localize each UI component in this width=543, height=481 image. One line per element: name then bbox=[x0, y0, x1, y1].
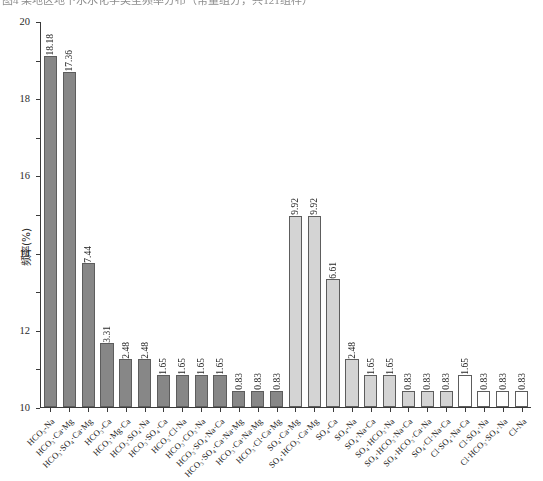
bar-value-label: 0.83 bbox=[403, 373, 413, 390]
x-axis-tick bbox=[60, 408, 79, 412]
bar-cell: 0.83 bbox=[493, 22, 512, 407]
bar[interactable]: 0.83 bbox=[402, 391, 415, 407]
bar-cell: 1.65 bbox=[361, 22, 380, 407]
bar[interactable]: 0.83 bbox=[232, 391, 245, 407]
bar-cell: 1.65 bbox=[154, 22, 173, 407]
bar-value-label: 9.92 bbox=[290, 198, 300, 215]
bar-value-label: 0.83 bbox=[498, 373, 508, 390]
bar[interactable]: 1.65 bbox=[157, 375, 170, 407]
bar-value-label: 9.92 bbox=[309, 198, 319, 215]
bar[interactable]: 0.83 bbox=[515, 391, 528, 407]
bar[interactable]: 1.65 bbox=[195, 375, 208, 407]
bar[interactable]: 0.83 bbox=[440, 391, 453, 407]
x-axis-tick bbox=[305, 408, 324, 412]
bar-cell: 9.92 bbox=[286, 22, 305, 407]
figure-caption-cropped: 图4 某地区地下水水化学类型频率分布（常量组分，共121组样） bbox=[0, 0, 543, 11]
bar-value-label: 1.65 bbox=[196, 358, 206, 375]
bar[interactable]: 0.83 bbox=[251, 391, 264, 407]
x-axis-tick bbox=[267, 408, 286, 412]
bar-cell: 2.48 bbox=[116, 22, 135, 407]
x-axis-label-cell: Cl-Na bbox=[512, 417, 531, 481]
bar[interactable]: 2.48 bbox=[119, 359, 132, 407]
bar-cell: 7.44 bbox=[79, 22, 98, 407]
x-axis-tick bbox=[116, 408, 135, 412]
y-axis-tick-label: 14 bbox=[20, 249, 31, 259]
bar-cell: 0.83 bbox=[267, 22, 286, 407]
bar[interactable]: 1.65 bbox=[458, 375, 471, 407]
x-axis-tick bbox=[286, 408, 305, 412]
x-axis-tick bbox=[135, 408, 154, 412]
bar[interactable]: 9.92 bbox=[289, 216, 302, 407]
bar[interactable]: 2.48 bbox=[138, 359, 151, 407]
bar-cell: 1.65 bbox=[211, 22, 230, 407]
bar-value-label: 2.48 bbox=[347, 342, 357, 359]
bar-cell: 6.61 bbox=[324, 22, 343, 407]
bar[interactable]: 0.83 bbox=[270, 391, 283, 407]
bar[interactable]: 1.65 bbox=[213, 375, 226, 407]
x-axis-ticks bbox=[41, 408, 531, 412]
x-axis-tick bbox=[79, 408, 98, 412]
bar-value-label: 3.31 bbox=[102, 326, 112, 343]
x-axis-tick bbox=[474, 408, 493, 412]
bar[interactable]: 17.36 bbox=[63, 72, 76, 407]
y-axis-tick-label: 18 bbox=[20, 94, 31, 104]
bar[interactable]: 1.65 bbox=[176, 375, 189, 407]
bar[interactable]: 0.83 bbox=[496, 391, 509, 407]
x-axis-tick bbox=[98, 408, 117, 412]
bar[interactable]: 1.65 bbox=[364, 375, 377, 407]
bar-value-label: 7.44 bbox=[83, 246, 93, 263]
bar-value-label: 1.65 bbox=[460, 358, 470, 375]
y-axis-tick: 16 bbox=[36, 99, 40, 100]
y-axis-tick-label: 12 bbox=[20, 326, 31, 336]
x-axis-tick bbox=[229, 408, 248, 412]
bar[interactable]: 0.83 bbox=[421, 391, 434, 407]
bar-cell: 0.83 bbox=[474, 22, 493, 407]
bar-cell: 1.65 bbox=[380, 22, 399, 407]
bar-value-label: 17.36 bbox=[64, 50, 74, 71]
x-axis-tick bbox=[380, 408, 399, 412]
y-axis-tick: 4 bbox=[36, 331, 40, 332]
x-axis-category-labels: HCO₃-NaHCO₃·Ca·MgHCO₃·SO₄·Ca·MgHCO₃-CaHC… bbox=[41, 417, 531, 481]
x-axis-tick bbox=[343, 408, 362, 412]
bar[interactable]: 6.61 bbox=[326, 279, 339, 407]
bar-cell: 2.48 bbox=[343, 22, 362, 407]
bar[interactable]: 3.31 bbox=[100, 343, 113, 407]
bar-value-label: 0.83 bbox=[517, 373, 527, 390]
x-axis-tick bbox=[211, 408, 230, 412]
bar-value-label: 0.83 bbox=[422, 373, 432, 390]
bar[interactable]: 0.83 bbox=[477, 391, 490, 407]
bar-value-label: 0.83 bbox=[253, 373, 263, 390]
bar-series: 18.1817.367.443.312.482.481.651.651.651.… bbox=[41, 22, 531, 407]
y-axis-tick: 10 bbox=[36, 215, 40, 216]
bar-cell: 1.65 bbox=[456, 22, 475, 407]
bar-value-label: 18.18 bbox=[45, 34, 55, 55]
y-axis-tick-label: 10 bbox=[20, 403, 31, 413]
bar-value-label: 0.83 bbox=[234, 373, 244, 390]
bar-chart-figure: 频率(%) 02468101214161820 18.1817.367.443.… bbox=[0, 13, 543, 481]
x-axis-tick bbox=[437, 408, 456, 412]
x-axis-tick bbox=[324, 408, 343, 412]
bar[interactable]: 9.92 bbox=[308, 216, 321, 407]
x-axis-tick bbox=[192, 408, 211, 412]
bar-cell: 3.31 bbox=[98, 22, 117, 407]
bar-value-label: 1.65 bbox=[158, 358, 168, 375]
x-axis-tick bbox=[154, 408, 173, 412]
bar-value-label: 0.83 bbox=[441, 373, 451, 390]
y-axis-tick: 8 bbox=[36, 254, 40, 255]
bar-cell: 0.83 bbox=[248, 22, 267, 407]
figure-caption-text: 图4 某地区地下水水化学类型频率分布（常量组分，共121组样） bbox=[2, 0, 543, 6]
x-axis-tick bbox=[41, 408, 60, 412]
bar-value-label: 1.65 bbox=[177, 358, 187, 375]
bar-value-label: 2.48 bbox=[121, 342, 131, 359]
bar-cell: 0.83 bbox=[229, 22, 248, 407]
bar[interactable]: 1.65 bbox=[383, 375, 396, 407]
y-axis-tick-label: 16 bbox=[20, 171, 31, 181]
x-axis-tick bbox=[248, 408, 267, 412]
bar[interactable]: 2.48 bbox=[345, 359, 358, 407]
x-axis-tick bbox=[173, 408, 192, 412]
y-axis-tick: 18 bbox=[36, 61, 40, 62]
bar[interactable]: 7.44 bbox=[82, 263, 95, 407]
bar-value-label: 0.83 bbox=[479, 373, 489, 390]
bar[interactable]: 18.18 bbox=[44, 56, 57, 407]
x-axis-tick bbox=[361, 408, 380, 412]
